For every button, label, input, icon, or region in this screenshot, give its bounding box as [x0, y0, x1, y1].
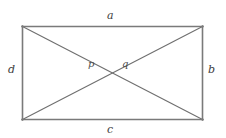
side-label-b: b [208, 64, 215, 75]
geometry-figure: a b c d p q [0, 0, 226, 138]
side-label-a: a [107, 10, 114, 21]
segment-label-q: q [122, 59, 128, 69]
side-label-d: d [8, 64, 15, 75]
side-label-c: c [107, 124, 113, 135]
segment-label-p: p [88, 59, 94, 69]
